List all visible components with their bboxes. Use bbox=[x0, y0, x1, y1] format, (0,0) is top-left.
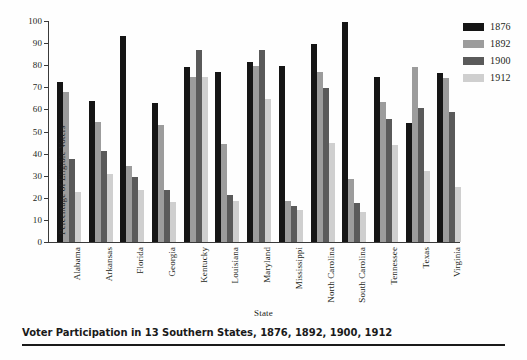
bar bbox=[202, 77, 208, 242]
y-tick-mark bbox=[44, 198, 48, 199]
y-tick-mark bbox=[44, 109, 48, 110]
y-axis-line bbox=[48, 21, 49, 243]
y-axis-title: Percentage of Eligible Voters bbox=[57, 125, 67, 234]
x-tick-label: South Carolina bbox=[358, 247, 367, 303]
bar bbox=[424, 171, 430, 242]
x-tick-label: Alabama bbox=[73, 247, 82, 280]
bar-group bbox=[311, 21, 335, 242]
caption-text: Voter Participation in 13 Southern State… bbox=[0, 327, 527, 338]
x-tick-label: Tennessee bbox=[390, 247, 399, 285]
legend-swatch bbox=[463, 23, 484, 31]
bar bbox=[233, 201, 239, 242]
bar-group bbox=[215, 21, 239, 242]
bar-group bbox=[406, 21, 430, 242]
bar bbox=[75, 192, 81, 242]
y-tick-mark bbox=[44, 43, 48, 44]
x-tick-label: Mississippi bbox=[295, 247, 304, 289]
caption-rule bbox=[22, 344, 505, 346]
x-tick-label: Georgia bbox=[168, 247, 177, 277]
y-tick-mark bbox=[44, 65, 48, 66]
y-tick-mark bbox=[44, 21, 48, 22]
x-axis-line bbox=[48, 242, 460, 243]
y-tick-label: 60 bbox=[33, 105, 42, 114]
bar-group bbox=[437, 21, 461, 242]
y-tick-label: 70 bbox=[33, 83, 42, 92]
plot-area: 0102030405060708090100 AlabamaArkansasFl… bbox=[48, 21, 460, 243]
legend: 1876189219001912 bbox=[463, 20, 523, 88]
y-tick-label: 100 bbox=[28, 17, 42, 26]
bar bbox=[360, 212, 366, 242]
legend-swatch bbox=[463, 74, 484, 82]
y-tick-label: 10 bbox=[33, 215, 42, 224]
y-tick-label: 80 bbox=[33, 61, 42, 70]
y-tick-mark bbox=[44, 242, 48, 243]
bar-group bbox=[342, 21, 366, 242]
legend-item: 1912 bbox=[463, 71, 523, 85]
bar bbox=[138, 190, 144, 242]
bar bbox=[265, 99, 271, 242]
x-axis-title: State bbox=[0, 308, 527, 318]
legend-item: 1900 bbox=[463, 54, 523, 68]
caption-block: Voter Participation in 13 Southern State… bbox=[0, 327, 527, 346]
bar bbox=[455, 187, 461, 242]
figure: 0102030405060708090100 AlabamaArkansasFl… bbox=[0, 0, 527, 360]
y-tick-label: 90 bbox=[33, 39, 42, 48]
y-tick-label: 50 bbox=[33, 127, 42, 136]
x-tick-label: Virginia bbox=[453, 247, 462, 277]
bar bbox=[297, 210, 303, 242]
legend-swatch bbox=[463, 57, 484, 65]
legend-label: 1876 bbox=[490, 22, 511, 32]
legend-label: 1900 bbox=[490, 56, 511, 66]
bar bbox=[170, 202, 176, 242]
y-tick-label: 40 bbox=[33, 149, 42, 158]
bar-group bbox=[279, 21, 303, 242]
y-tick-label: 20 bbox=[33, 193, 42, 202]
bar bbox=[392, 145, 398, 242]
y-tick-label: 0 bbox=[37, 238, 42, 247]
y-tick-mark bbox=[44, 154, 48, 155]
bar-group bbox=[184, 21, 208, 242]
y-tick-mark bbox=[44, 220, 48, 221]
bar bbox=[107, 174, 113, 243]
legend-swatch bbox=[463, 40, 484, 48]
x-tick-label: Maryland bbox=[263, 247, 272, 283]
bar-group bbox=[374, 21, 398, 242]
bar bbox=[329, 143, 335, 242]
bar-group bbox=[152, 21, 176, 242]
x-tick-label: North Carolina bbox=[327, 247, 336, 303]
y-tick-mark bbox=[44, 87, 48, 88]
legend-item: 1892 bbox=[463, 37, 523, 51]
x-tick-label: Kentucky bbox=[200, 247, 209, 283]
y-tick-mark bbox=[44, 176, 48, 177]
y-tick-mark bbox=[44, 132, 48, 133]
legend-item: 1876 bbox=[463, 20, 523, 34]
y-tick-label: 30 bbox=[33, 171, 42, 180]
legend-label: 1892 bbox=[490, 39, 511, 49]
x-tick-label: Arkansas bbox=[105, 247, 114, 281]
legend-label: 1912 bbox=[490, 73, 511, 83]
x-tick-label: Florida bbox=[136, 247, 145, 274]
bar-group bbox=[247, 21, 271, 242]
x-tick-label: Texas bbox=[422, 247, 431, 268]
x-tick-label: Louisiana bbox=[231, 247, 240, 283]
bar-group bbox=[89, 21, 113, 242]
bar-group bbox=[120, 21, 144, 242]
